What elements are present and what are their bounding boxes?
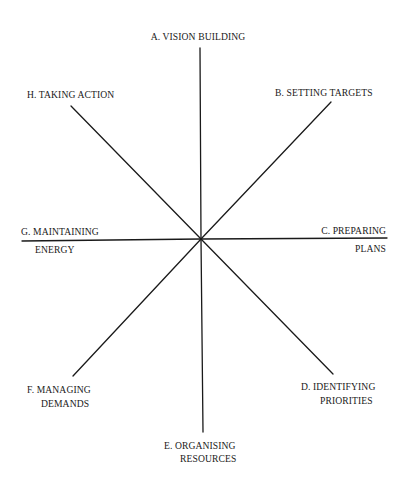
label-e-line1: E. ORGANISING (164, 440, 236, 452)
label-d-line1: D. IDENTIFYING (301, 381, 375, 393)
label-b-setting-targets: B. SETTING TARGETS (275, 87, 373, 99)
label-a-vision-building: A. VISION BUILDING (138, 31, 258, 43)
label-h-taking-action: H. TAKING ACTION (27, 89, 114, 101)
label-d-line2: PRIORITIES (320, 395, 373, 407)
axis-b-setting-targets (201, 102, 331, 239)
axis-e-organising-resources (201, 239, 203, 432)
axis-f-managing-demands (73, 239, 201, 376)
label-c-line2: PLANS (286, 243, 386, 255)
axis-a-vision-building (200, 48, 201, 239)
axis-d-identifying-priorities (201, 239, 333, 374)
label-g-line2: ENERGY (35, 244, 75, 256)
label-f-line1: F. MANAGING (27, 384, 91, 396)
label-g-line1: G. MAINTAINING (21, 226, 99, 238)
axis-g-maintaining-energy (22, 239, 201, 241)
axis-h-taking-action (71, 106, 201, 239)
axis-c-preparing-plans (201, 238, 387, 239)
label-c-line1: C. PREPARING (286, 225, 386, 237)
label-e-line2: RESOURCES (180, 453, 236, 465)
label-f-line2: DEMANDS (41, 398, 89, 410)
